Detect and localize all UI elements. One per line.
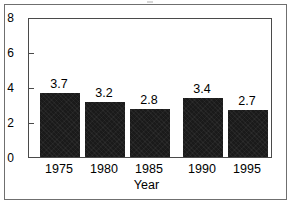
x-axis-label-1985: 1985 [129, 163, 169, 176]
y-axis-tick-mark [29, 53, 34, 54]
y-axis-tick-label: 0 [0, 152, 14, 164]
bar-value-label-1985: 2.8 [129, 94, 169, 107]
y-axis-tick-mark [29, 88, 34, 89]
bar-value-label-1980: 3.2 [84, 87, 124, 100]
y-axis-tick-mark [29, 123, 34, 124]
bar-1980 [85, 102, 125, 157]
bar-value-label-1975: 3.7 [39, 78, 79, 91]
y-axis-tick-label: 6 [0, 47, 14, 59]
x-axis-label-1990: 1990 [182, 163, 222, 176]
bar-value-label-1990: 3.4 [182, 83, 222, 96]
x-axis-label-1995: 1995 [227, 163, 267, 176]
bar-1975 [40, 93, 80, 157]
bar-1995 [228, 110, 268, 157]
x-axis-title: Year [0, 179, 293, 192]
bar-1990 [183, 98, 223, 157]
bar-value-label-1995: 2.7 [227, 95, 267, 108]
x-axis-label-1980: 1980 [84, 163, 124, 176]
y-axis-tick-label: 8 [0, 12, 14, 24]
bar-chart-figure: 0 2 4 6 8 3.7 3.2 2.8 3.4 2.7 1975 1980 … [0, 0, 293, 207]
y-axis-tick-label: 4 [0, 82, 14, 94]
x-axis-label-1975: 1975 [39, 163, 79, 176]
scan-artifact [147, 1, 153, 3]
y-axis-tick-label: 2 [0, 117, 14, 129]
bar-1985 [130, 109, 170, 157]
